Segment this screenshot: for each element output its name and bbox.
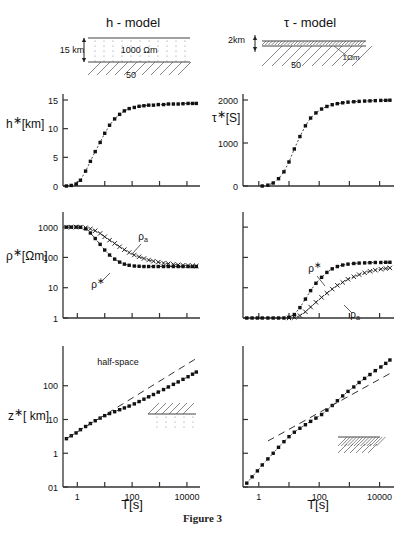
h-model-layer-stipple	[166, 40, 167, 41]
data-point-marker	[103, 414, 106, 417]
h-model-arrow-head-bottom	[82, 58, 86, 62]
h-model-layer-stipple	[148, 55, 149, 56]
h-model-layer-stipple	[157, 45, 158, 46]
data-point-marker	[298, 135, 301, 138]
inset-h-stipple	[183, 416, 184, 417]
series-line-ρ*	[66, 227, 196, 266]
data-point-marker	[186, 375, 189, 378]
data-point-marker	[127, 264, 130, 267]
data-point-marker	[341, 394, 344, 397]
data-point-marker	[167, 385, 170, 388]
tau-model-halfspace-hatch	[302, 46, 322, 66]
h-model-layer-stipple	[166, 50, 167, 51]
inset-h-stipple	[165, 421, 166, 422]
data-point-marker	[336, 102, 339, 105]
data-point-marker	[314, 416, 317, 419]
inset-h-hatch	[176, 403, 187, 414]
inset-h-hatch	[162, 403, 173, 414]
data-point-marker	[123, 406, 126, 409]
leader-line-rho-a-left	[133, 244, 141, 253]
data-point-marker	[368, 99, 371, 102]
data-point-marker	[352, 385, 355, 388]
data-point-marker	[157, 265, 160, 268]
h-model-halfspace-label: 50	[126, 70, 136, 80]
data-point-marker	[379, 99, 382, 102]
x-tick-label-z-star-h-model: 1	[75, 492, 80, 502]
data-point-marker	[336, 399, 339, 402]
data-point-marker	[384, 261, 387, 264]
y-tick-label-h-star-vs-T: 15	[48, 96, 58, 106]
h-model-layer-stipple	[103, 45, 104, 46]
inset-sketch-tau-model	[338, 437, 385, 453]
model-title-tau: τ - model	[284, 15, 336, 30]
data-point-marker	[176, 102, 179, 105]
data-point-marker	[293, 431, 296, 434]
data-point-marker	[142, 397, 145, 400]
data-point-marker	[70, 184, 73, 187]
inset-h-stipple	[174, 421, 175, 422]
data-point-marker	[379, 365, 382, 368]
data-point-marker	[314, 282, 317, 285]
y-axis-title-z-star: z∗[ km]	[8, 406, 49, 423]
h-model-layer-stipple	[175, 55, 176, 56]
data-point-marker	[79, 179, 82, 182]
h-model-layer-stipple	[130, 55, 131, 56]
tau-model-arrow-head-top	[253, 36, 257, 40]
series-line-h*	[66, 103, 196, 186]
data-point-marker	[341, 263, 344, 266]
h-model-layer-stipple	[94, 50, 95, 51]
x-tick-label-z-star-tau-model: 10000	[367, 492, 392, 502]
y-tick-label-tau-star-vs-T: 1000	[218, 139, 238, 149]
data-point-marker	[133, 106, 136, 109]
tau-model-halfspace-hatch	[312, 46, 332, 66]
x-axis-title-right: T[s]	[307, 497, 329, 512]
data-point-marker	[108, 253, 111, 256]
data-point-marker	[272, 181, 275, 184]
data-point-marker	[162, 103, 165, 106]
h-model-layer-stipple	[112, 55, 113, 56]
inset-h-hatch	[183, 403, 194, 414]
curve-label-rho-star-left: ρ∗	[91, 276, 105, 290]
data-point-marker	[357, 261, 360, 264]
data-point-marker	[98, 243, 101, 246]
data-point-marker	[191, 102, 194, 105]
y-tick-label-z-star-h-model: 1	[53, 449, 58, 459]
data-point-marker	[293, 147, 296, 150]
y-tick-label-rho-star-h-model: 1000	[38, 223, 58, 233]
h-model-layer-stipple	[184, 45, 185, 46]
data-point-marker	[142, 265, 145, 268]
data-point-marker	[94, 237, 97, 240]
tau-model-halfspace-hatch	[322, 46, 342, 66]
data-point-marker	[388, 261, 391, 264]
data-point-marker	[147, 395, 150, 398]
data-point-marker	[123, 109, 126, 112]
data-point-marker	[195, 370, 198, 373]
data-point-marker	[137, 265, 140, 268]
inset-h-stipple	[165, 426, 166, 427]
data-point-marker	[157, 390, 160, 393]
y-tick-label-h-star-vs-T: 10	[48, 124, 58, 134]
data-point-marker	[157, 103, 160, 106]
data-point-marker	[176, 380, 179, 383]
data-point-marker	[162, 388, 165, 391]
data-point-marker	[142, 104, 145, 107]
data-point-marker	[384, 99, 387, 102]
data-point-marker	[346, 262, 349, 265]
figure-caption: Figure 3	[0, 512, 405, 524]
h-model-layer-label: 1000 Ωm	[121, 45, 158, 55]
data-point-marker	[152, 393, 155, 396]
inset-h-hatch	[148, 403, 159, 414]
data-point-marker	[266, 457, 269, 460]
h-model-layer-stipple	[175, 45, 176, 46]
tau-model-halfspace-label: 50	[291, 60, 301, 70]
data-point-marker	[84, 169, 87, 172]
data-point-marker	[363, 261, 366, 264]
data-point-marker	[363, 377, 366, 380]
data-point-marker	[388, 358, 391, 361]
data-point-marker	[113, 117, 116, 120]
data-point-marker	[137, 400, 140, 403]
data-point-marker	[113, 257, 116, 260]
data-point-marker	[167, 102, 170, 105]
data-point-marker	[152, 265, 155, 268]
data-point-marker	[89, 160, 92, 163]
